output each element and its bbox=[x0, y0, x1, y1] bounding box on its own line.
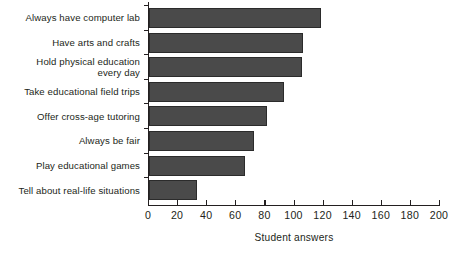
category-label: Play educational games bbox=[0, 160, 140, 171]
bar bbox=[149, 156, 245, 176]
x-axis-title: Student answers bbox=[148, 232, 440, 243]
bar bbox=[149, 106, 267, 126]
x-axis-tick bbox=[410, 200, 411, 206]
category-axis-labels: Always have computer labHave arts and cr… bbox=[0, 0, 144, 205]
x-axis-tick bbox=[323, 200, 324, 206]
y-axis-tick bbox=[144, 54, 148, 55]
x-axis-tick bbox=[148, 200, 149, 206]
category-label: Take educational field trips bbox=[0, 86, 140, 97]
category-label: Tell about real-life situations bbox=[0, 185, 140, 196]
x-axis-tick bbox=[206, 200, 207, 206]
bar bbox=[149, 180, 197, 200]
bar bbox=[149, 82, 284, 102]
y-axis-tick bbox=[144, 153, 148, 154]
y-axis-tick bbox=[144, 103, 148, 104]
x-axis-tick bbox=[381, 200, 382, 206]
y-axis-tick bbox=[144, 79, 148, 80]
y-axis-tick bbox=[144, 30, 148, 31]
category-label: Offer cross-age tutoring bbox=[0, 111, 140, 122]
category-label: Have arts and crafts bbox=[0, 37, 140, 48]
y-axis-tick bbox=[144, 177, 148, 178]
bar bbox=[149, 57, 302, 77]
x-axis-tick-label: 200 bbox=[419, 209, 453, 221]
category-label: Always have computer lab bbox=[0, 12, 140, 23]
x-axis-tick bbox=[294, 200, 295, 206]
x-axis-tick bbox=[352, 200, 353, 206]
y-axis-tick bbox=[144, 5, 148, 6]
bar bbox=[149, 8, 321, 28]
x-axis-tick bbox=[177, 200, 178, 206]
y-axis-tick bbox=[144, 128, 148, 129]
plot-area bbox=[148, 0, 440, 205]
category-label: Always be fair bbox=[0, 135, 140, 146]
bar bbox=[149, 33, 303, 53]
x-axis-tick bbox=[439, 200, 440, 206]
x-axis-tick bbox=[264, 200, 265, 206]
bar bbox=[149, 131, 254, 151]
category-label: Hold physical education every day bbox=[0, 56, 140, 79]
x-axis-tick bbox=[235, 200, 236, 206]
